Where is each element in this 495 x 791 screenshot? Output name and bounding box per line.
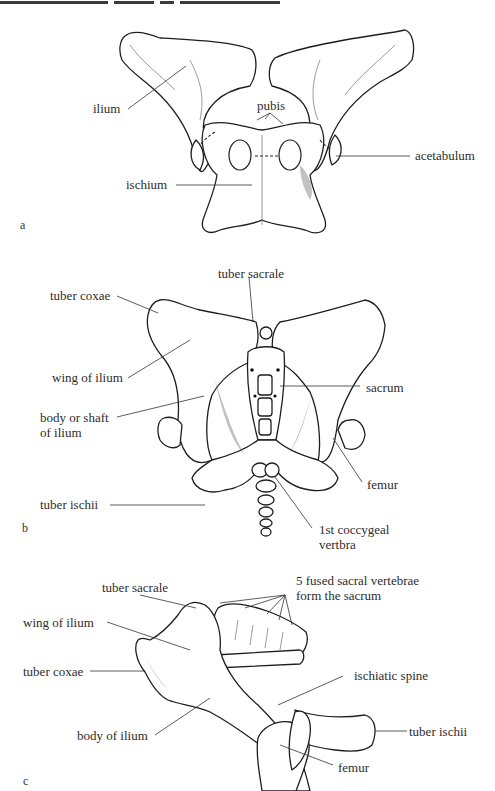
label-tuber-sacrale-b: tuber sacrale <box>218 266 284 281</box>
label-sacrum-b: sacrum <box>366 380 404 395</box>
label-tuber-coxae-c: tuber coxae <box>23 664 83 679</box>
label-acetabulum-a: acetabulum <box>415 148 475 163</box>
label-fused-sacral-line2-c: form the sacrum <box>296 588 381 603</box>
label-tuber-sacrale-c: tuber sacrale <box>102 580 168 595</box>
panel-label-a: a <box>20 218 25 233</box>
panel-label-b: b <box>22 521 28 536</box>
figure-a-pelvis-ventral <box>120 30 414 233</box>
label-tuber-coxae-b: tuber coxae <box>50 288 110 303</box>
label-femur-c: femur <box>338 760 369 775</box>
label-pubis-a: pubis <box>257 98 285 113</box>
label-body-or-shaft-line1-b: body or shaft <box>40 410 109 425</box>
label-1st-coccygeal-line1-b: 1st coccygeal <box>319 522 389 537</box>
label-body-or-shaft-line2-b: of ilium <box>40 425 82 440</box>
label-tuber-ischii-c: tuber ischii <box>409 724 467 739</box>
label-ilium-a: ilium <box>93 101 120 116</box>
label-ischium-a: ischium <box>126 177 167 192</box>
panel-label-c: c <box>23 774 28 789</box>
label-femur-b: femur <box>367 477 398 492</box>
label-wing-of-ilium-b: wing of ilium <box>52 370 123 385</box>
label-fused-sacral-line1-c: 5 fused sacral vertebrae <box>296 573 419 588</box>
label-1st-coccygeal-line2-b: vertbra <box>319 537 356 552</box>
label-ischiatic-spine-c: ischiatic spine <box>354 668 428 683</box>
label-body-of-ilium-c: body of ilium <box>77 728 148 743</box>
label-tuber-ischii-b: tuber ischii <box>40 497 98 512</box>
figure-b-pelvis-dorsal <box>110 277 385 536</box>
label-wing-of-ilium-c: wing of ilium <box>23 615 94 630</box>
